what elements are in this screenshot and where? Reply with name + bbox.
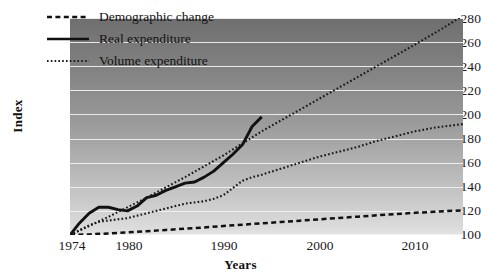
x-tick-label: 1974: [42, 239, 102, 253]
x-tick-label: 1980: [99, 239, 159, 253]
legend-item-real-expenditure: Real expenditure: [46, 28, 214, 50]
legend-item-demographic-change: Demographic change: [46, 6, 214, 28]
legend-item-volume-expenditure: Volume expenditure: [46, 50, 214, 72]
x-tick-label: 2010: [385, 239, 445, 253]
legend-label: Demographic change: [99, 10, 214, 24]
legend: Demographic change Real expenditure Volu…: [46, 6, 214, 72]
legend-label: Volume expenditure: [99, 54, 208, 68]
y-axis-title: Index: [10, 86, 26, 146]
series-line: [70, 210, 463, 235]
x-tick-label: 1990: [194, 239, 254, 253]
dashed-line-icon: [46, 12, 90, 22]
dotted-line-icon: [46, 56, 90, 66]
legend-label: Real expenditure: [99, 32, 191, 46]
x-axis-title: Years: [0, 257, 481, 273]
line-chart: Index 280 260 240 220 200 180 160 140 12…: [0, 0, 481, 279]
solid-line-icon: [46, 34, 90, 44]
series-line: [70, 117, 262, 235]
x-tick-label: 2000: [290, 239, 350, 253]
series-line: [70, 124, 463, 235]
